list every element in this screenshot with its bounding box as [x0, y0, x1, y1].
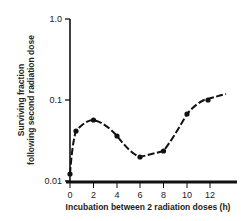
survival-chart: 1.0 0.1 0.01 0 2 4 6 8 10 12 Incubation … [0, 0, 249, 221]
y-axis: 1.0 0.1 0.01 [44, 14, 70, 186]
y-tick-label-0.1: 0.1 [49, 95, 62, 105]
y-tick-label-1: 1.0 [49, 14, 62, 24]
data-series [67, 94, 226, 177]
curve-line [70, 94, 226, 174]
data-point [91, 117, 96, 122]
x-tick-label-8: 8 [161, 190, 166, 200]
x-tick-label-4: 4 [114, 190, 119, 200]
x-tick-label-6: 6 [137, 190, 142, 200]
data-point [67, 171, 72, 176]
data-point [161, 148, 166, 153]
data-point [114, 133, 119, 138]
x-tick-label-10: 10 [182, 190, 192, 200]
data-point [137, 154, 142, 159]
x-axis-title: Incubation between 2 radiation doses (h) [66, 202, 231, 212]
data-point [73, 128, 78, 133]
data-point [205, 97, 210, 102]
x-axis: 0 2 4 6 8 10 12 [66, 182, 237, 200]
x-tick-label-2: 2 [91, 190, 96, 200]
y-tick-label-0.01: 0.01 [44, 176, 62, 186]
x-tick-label-12: 12 [205, 190, 215, 200]
y-axis-title-line1: Surviving fraction [16, 64, 26, 136]
x-tick-label-0: 0 [67, 190, 72, 200]
data-point [184, 111, 189, 116]
y-axis-title-line2: following second radiation dose [26, 35, 36, 165]
